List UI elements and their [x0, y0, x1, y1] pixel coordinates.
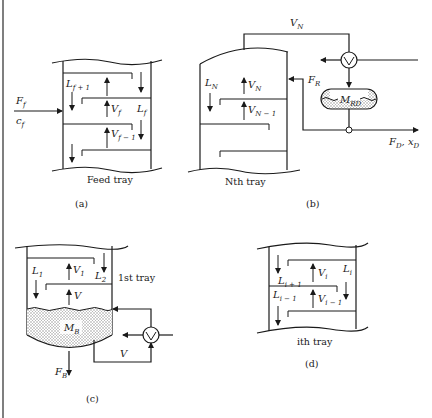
- panel-d-caption: (d): [305, 358, 319, 369]
- boilup-label: V: [74, 290, 83, 301]
- panel-a-caption: (a): [75, 198, 88, 209]
- feed-composition-label: cf: [16, 115, 26, 129]
- pump-junction-icon: [346, 127, 352, 133]
- liquid-f-label: Lf: [136, 103, 148, 117]
- boilup-return-arrow: [113, 309, 151, 327]
- liquid-i-plus-1-label: Li + 1: [277, 275, 302, 289]
- panel-a-feed-tray: Ff cf Lf + 1 Vf Lf Vf − 1 Feed tray (a): [14, 59, 162, 209]
- panel-b-nth-tray: VN LN VN VN − 1 FR MRD FD, xD Nth tray (…: [188, 17, 420, 209]
- liquid-i-minus-1-label: Li − 1: [272, 289, 297, 303]
- vapor-1-label: V1: [73, 264, 85, 278]
- panel-a-title: Feed tray: [87, 174, 133, 185]
- liquid-f-plus-1-label: Lf + 1: [65, 78, 90, 92]
- vapor-i-minus-1-label: Vi − 1: [318, 293, 342, 307]
- reboiler-vapor-label: V: [120, 348, 129, 359]
- liquid-1-label: L1: [31, 265, 43, 279]
- panel-c-caption: (c): [86, 393, 99, 404]
- distillate-label: FD, xD: [388, 136, 420, 150]
- bottoms-label: FB: [54, 366, 67, 380]
- vapor-f-minus-1-label: Vf − 1: [111, 128, 136, 142]
- liquid-2-label: L2: [94, 270, 107, 284]
- liquid-i-label: Li: [342, 263, 352, 277]
- panel-b-caption: (b): [306, 198, 320, 209]
- liquid-n-label: LN: [204, 77, 219, 91]
- vapor-i-label: Vi: [318, 267, 327, 281]
- overhead-vapor-label: VN: [290, 17, 304, 31]
- vapor-n-label: VN: [248, 79, 262, 93]
- distillation-tray-figure: Ff cf Lf + 1 Vf Lf Vf − 1 Feed tray (a): [0, 0, 432, 418]
- vapor-n-minus-1-label: VN − 1: [248, 104, 276, 118]
- vapor-f-label: Vf: [111, 103, 122, 117]
- panel-b-title: Nth tray: [225, 176, 266, 187]
- panel-d-ith-tray: Li + 1 Vi Li Li − 1 Vi − 1 ith tray (d): [257, 243, 368, 369]
- reflux-label: FR: [307, 74, 321, 88]
- feed-flow-label: Ff: [15, 95, 27, 109]
- panel-d-title: ith tray: [297, 336, 333, 347]
- panel-c-title: 1st tray: [118, 272, 156, 283]
- panel-c-first-tray: L1 V1 L2 V MB V FB 1st tray (c): [15, 245, 173, 404]
